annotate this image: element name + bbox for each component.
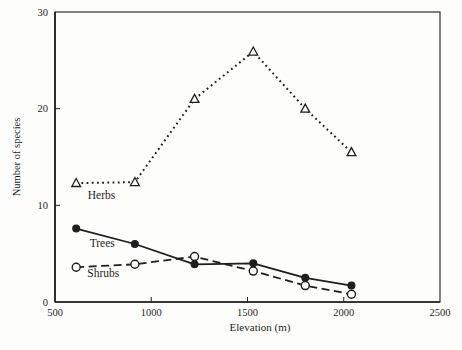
open-triangle-marker bbox=[72, 179, 81, 187]
open-circle-marker bbox=[72, 263, 80, 271]
y-axis-tick-label: 0 bbox=[43, 297, 48, 308]
filled-circle-marker bbox=[131, 240, 139, 248]
open-circle-marker bbox=[131, 260, 139, 268]
chart-canvas: 50010001500200025000102030 HerbsTreesShr… bbox=[0, 0, 462, 350]
y-axis-title: Number of species bbox=[11, 118, 22, 197]
filled-circle-marker bbox=[249, 259, 257, 267]
open-triangle-marker bbox=[249, 47, 258, 55]
series-layer: HerbsTreesShrubs bbox=[72, 47, 356, 298]
x-axis-tick-label: 2500 bbox=[430, 307, 451, 318]
filled-circle-marker bbox=[191, 260, 199, 268]
series-line-herbs bbox=[76, 52, 351, 183]
y-axis-tick-label: 30 bbox=[38, 7, 49, 18]
filled-circle-marker bbox=[301, 274, 309, 282]
x-axis-tick-label: 500 bbox=[47, 307, 63, 318]
x-axis-tick-label: 1000 bbox=[141, 307, 162, 318]
open-triangle-marker bbox=[301, 104, 310, 112]
y-axis-tick-label: 20 bbox=[38, 103, 49, 114]
x-axis-title: Elevation (m) bbox=[230, 321, 291, 334]
filled-circle-marker bbox=[72, 225, 80, 233]
species-elevation-figure: 50010001500200025000102030 HerbsTreesShr… bbox=[0, 0, 462, 350]
open-circle-marker bbox=[301, 282, 309, 290]
series-label-shrubs: Shrubs bbox=[87, 267, 119, 279]
open-circle-marker bbox=[347, 290, 355, 298]
x-axis-tick-label: 1500 bbox=[237, 307, 258, 318]
x-axis-tick-label: 2000 bbox=[333, 307, 354, 318]
open-triangle-marker bbox=[190, 94, 199, 102]
y-axis-tick-label: 10 bbox=[38, 200, 49, 211]
series-label-trees: Trees bbox=[90, 237, 116, 249]
filled-circle-marker bbox=[347, 282, 355, 290]
series-label-herbs: Herbs bbox=[88, 189, 116, 201]
open-triangle-marker bbox=[347, 148, 356, 156]
open-circle-marker bbox=[191, 253, 199, 261]
open-circle-marker bbox=[249, 267, 257, 275]
